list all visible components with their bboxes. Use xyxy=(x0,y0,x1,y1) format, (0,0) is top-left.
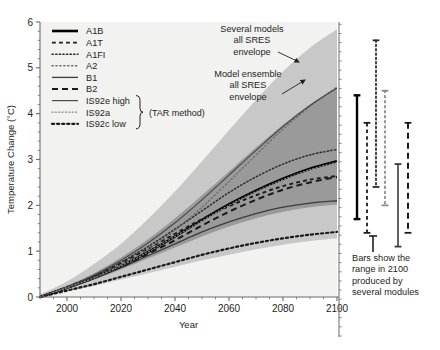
several-models-annotation-line: envelope xyxy=(233,47,270,57)
range-bar-a2 xyxy=(382,91,389,206)
y-tick-label: 3 xyxy=(27,154,33,165)
range-bars xyxy=(354,40,412,246)
y-tick-label: 5 xyxy=(27,62,33,73)
legend-label: IS92a xyxy=(86,108,111,118)
legend-label: B1 xyxy=(86,73,97,83)
several-models-annotation-line: Several models xyxy=(220,24,284,34)
model-ensemble-annotation-line: envelope xyxy=(229,92,266,102)
legend-note: (TAR method) xyxy=(149,108,205,118)
range-bar-a1b xyxy=(354,95,361,219)
chart-svg: 0123456200020202040206020802100Temperatu… xyxy=(0,0,440,350)
range-bar-a1fi xyxy=(373,40,380,187)
x-tick-label: 2040 xyxy=(164,303,187,314)
legend-label: A1B xyxy=(86,26,103,36)
y-tick-label: 0 xyxy=(27,292,33,303)
legend-label: B2 xyxy=(86,84,97,94)
y-axis-title: Temperature Change (°C) xyxy=(5,105,16,214)
caption-pointer xyxy=(369,236,377,252)
x-tick-label: 2020 xyxy=(110,303,133,314)
bars-caption: Bars show therange in 2100produced bysev… xyxy=(352,253,419,297)
y-tick-label: 1 xyxy=(27,246,33,257)
legend-label: A1T xyxy=(86,38,103,48)
y-tick-label: 2 xyxy=(27,200,33,211)
bars-caption-line: Bars show the xyxy=(352,253,410,263)
legend-label: A2 xyxy=(86,61,97,71)
legend-label: IS92c low xyxy=(86,119,126,129)
range-bar-b2 xyxy=(405,123,412,233)
figure-container: 0123456200020202040206020802100Temperatu… xyxy=(0,0,440,350)
range-bar-a1t xyxy=(364,123,371,233)
bars-caption-line: range in 2100 xyxy=(352,264,408,274)
y-tick-label: 4 xyxy=(27,108,33,119)
legend-label: IS92e high xyxy=(86,96,130,106)
y-tick-label: 6 xyxy=(27,17,33,28)
x-axis-title: Year xyxy=(179,319,198,330)
several-models-annotation-line: all SRES xyxy=(234,35,271,45)
legend-label: A1FI xyxy=(86,50,105,60)
bars-caption-line: produced by xyxy=(352,276,403,286)
x-tick-label: 2080 xyxy=(272,303,295,314)
bars-caption-line: several modules xyxy=(352,287,419,297)
x-tick-label: 2100 xyxy=(326,303,349,314)
x-tick-label: 2000 xyxy=(56,303,79,314)
range-bar-b1 xyxy=(395,164,402,247)
model-ensemble-annotation-line: all SRES xyxy=(230,80,267,90)
model-ensemble-annotation-line: Model ensemble xyxy=(214,69,281,79)
x-tick-label: 2060 xyxy=(218,303,241,314)
right-axis-rail xyxy=(339,22,342,337)
